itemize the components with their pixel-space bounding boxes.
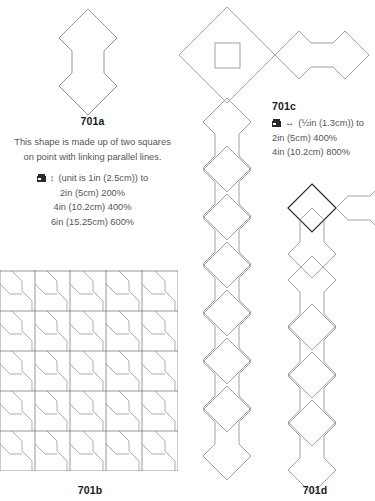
figure-label-701d: 701d	[255, 484, 375, 496]
scale-line-1: 2in (5cm) 200%	[0, 186, 185, 201]
scale-instructions-701c: ↔ (½in (1.3cm)) to 2in (5cm) 400% 4in (1…	[272, 116, 371, 160]
figure-label-701c: 701c	[272, 100, 371, 112]
scale-line-2: 4in (10.2cm) 800%	[272, 145, 371, 160]
photocopier-icon	[37, 174, 46, 182]
figure-block-701a: 701a This shape is made up of two square…	[0, 5, 185, 230]
figure-description-701a: This shape is made up of two squares on …	[0, 135, 185, 164]
scale-line-1: 2in (5cm) 400%	[272, 131, 371, 146]
scale-line-0: (unit is 1in (2.5cm)) to	[58, 171, 148, 186]
figure-label-701b: 701b	[30, 484, 150, 496]
figure-block-701c: 701c ↔ (½in (1.3cm)) to 2in (5cm) 400% 4…	[272, 100, 371, 160]
scale-line-2: 4in (10.2cm) 400%	[0, 200, 185, 215]
scale-line-0: (½in (1.3cm)) to	[298, 116, 364, 131]
shape-701a-drawing	[0, 5, 185, 113]
scale-first-line-701a: ↕ (unit is 1in (2.5cm)) to	[0, 171, 185, 186]
scale-line-3: 6in (15.25cm) 600%	[0, 215, 185, 230]
pattern-grid-701b	[0, 270, 190, 475]
description-line-1: This shape is made up of two squares	[0, 135, 185, 150]
description-line-2: on point with linking parallel lines.	[0, 150, 185, 165]
horizontal-measure-icon: ↔	[285, 116, 294, 131]
vertical-measure-icon: ↕	[50, 171, 55, 186]
vertical-chain-701d	[282, 182, 374, 482]
scale-instructions-701a: ↕ (unit is 1in (2.5cm)) to 2in (5cm) 200…	[0, 171, 185, 229]
scale-first-line-701c: ↔ (½in (1.3cm)) to	[272, 116, 371, 131]
photocopier-icon	[272, 119, 281, 127]
figure-label-701a: 701a	[0, 115, 185, 127]
